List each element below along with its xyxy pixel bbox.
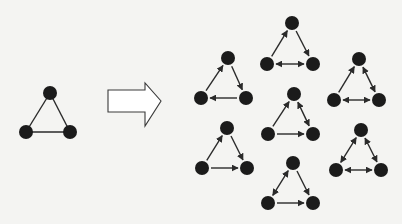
graph-node (306, 127, 320, 141)
directed-edge-arrow (207, 136, 222, 161)
triad-mutual-right (261, 87, 320, 141)
graph-node (354, 123, 368, 137)
triad-all-mutual (329, 123, 388, 177)
mutual-edge-arrow (298, 102, 309, 126)
graph-node (287, 87, 301, 101)
triad-diagram (0, 0, 402, 224)
directed-edge-arrow (297, 171, 309, 195)
triad-cycle (194, 51, 253, 105)
graph-node (261, 196, 275, 210)
directed-edge-arrow (206, 65, 223, 90)
graph-node (285, 16, 299, 30)
graph-node (374, 163, 388, 177)
mutual-edge-arrow (365, 138, 377, 162)
graph-node (239, 91, 253, 105)
triad-two-mutual (327, 52, 386, 107)
graph-node (261, 127, 275, 141)
directed-edge-arrow (273, 102, 289, 127)
graph-node (194, 91, 208, 105)
graph-node (63, 125, 77, 139)
transform-arrow-icon (108, 83, 161, 126)
graph-node (220, 121, 234, 135)
source-triangle (19, 86, 77, 139)
directed-edge-arrow (296, 31, 309, 56)
graph-node (286, 156, 300, 170)
graph-node (327, 93, 341, 107)
triad-mutual-base-top-out (260, 16, 320, 71)
graph-node (306, 196, 320, 210)
directed-variants (194, 16, 388, 210)
mutual-edge-arrow (363, 67, 375, 92)
graph-node (240, 161, 254, 175)
directed-edge-arrow (232, 66, 243, 90)
directed-edge-arrow (272, 31, 288, 57)
mutual-edge-arrow (341, 138, 356, 163)
triad-transitive (195, 121, 254, 175)
mutual-edge-arrow (273, 171, 288, 196)
graph-node (329, 163, 343, 177)
graph-node (43, 86, 57, 100)
graph-node (221, 51, 235, 65)
diagram-canvas (0, 0, 402, 224)
triad-mutual-left (261, 156, 320, 210)
undirected-triangle (19, 86, 77, 139)
directed-edge-arrow (339, 67, 355, 93)
graph-node (372, 93, 386, 107)
graph-node (19, 125, 33, 139)
graph-node (260, 57, 274, 71)
graph-node (352, 52, 366, 66)
graph-node (195, 161, 209, 175)
right-arrow-icon (108, 83, 161, 126)
graph-node (306, 57, 320, 71)
directed-edge-arrow (231, 136, 243, 160)
